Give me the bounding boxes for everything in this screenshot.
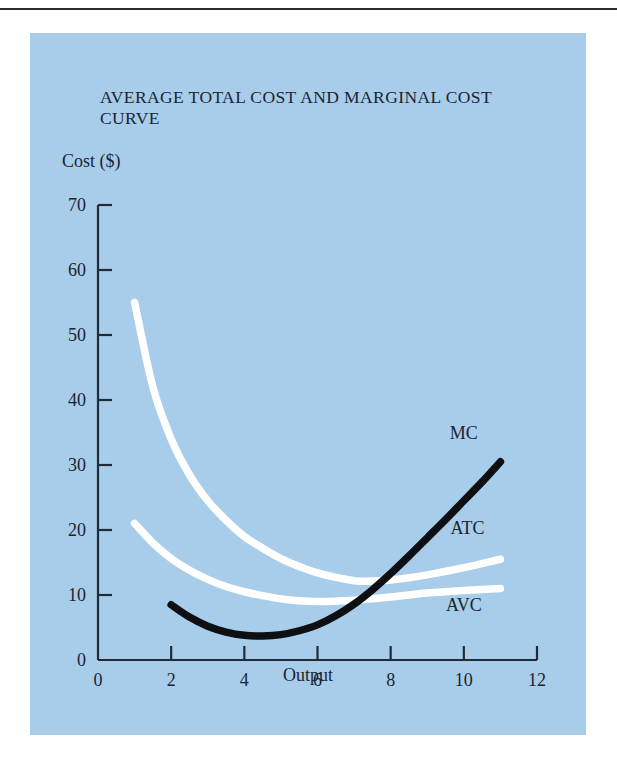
page-root: AVERAGE TOTAL COST AND MARGINAL COST CUR… — [0, 0, 617, 771]
curve-label-avc: AVC — [446, 595, 482, 615]
x-axis-label: Output — [30, 665, 586, 686]
figure-panel: AVERAGE TOTAL COST AND MARGINAL COST CUR… — [30, 33, 586, 735]
y-tick-label: 30 — [68, 455, 86, 475]
y-tick-label: 40 — [68, 390, 86, 410]
curve-label-atc: ATC — [450, 518, 484, 538]
y-tick-label: 20 — [68, 520, 86, 540]
chart-plot-area: 010203040506070 024681012 MCATCAVC — [30, 33, 586, 735]
curve-label-mc: MC — [450, 423, 478, 443]
y-tick-label: 50 — [68, 325, 86, 345]
y-tick-label: 10 — [68, 585, 86, 605]
y-tick-label: 60 — [68, 260, 86, 280]
top-horizontal-rule — [0, 8, 617, 10]
y-tick-label: 70 — [68, 195, 86, 215]
curve-group — [135, 303, 501, 636]
y-tick-group: 010203040506070 — [68, 195, 112, 670]
curve-atc — [135, 303, 501, 582]
curve-avc — [135, 524, 501, 602]
